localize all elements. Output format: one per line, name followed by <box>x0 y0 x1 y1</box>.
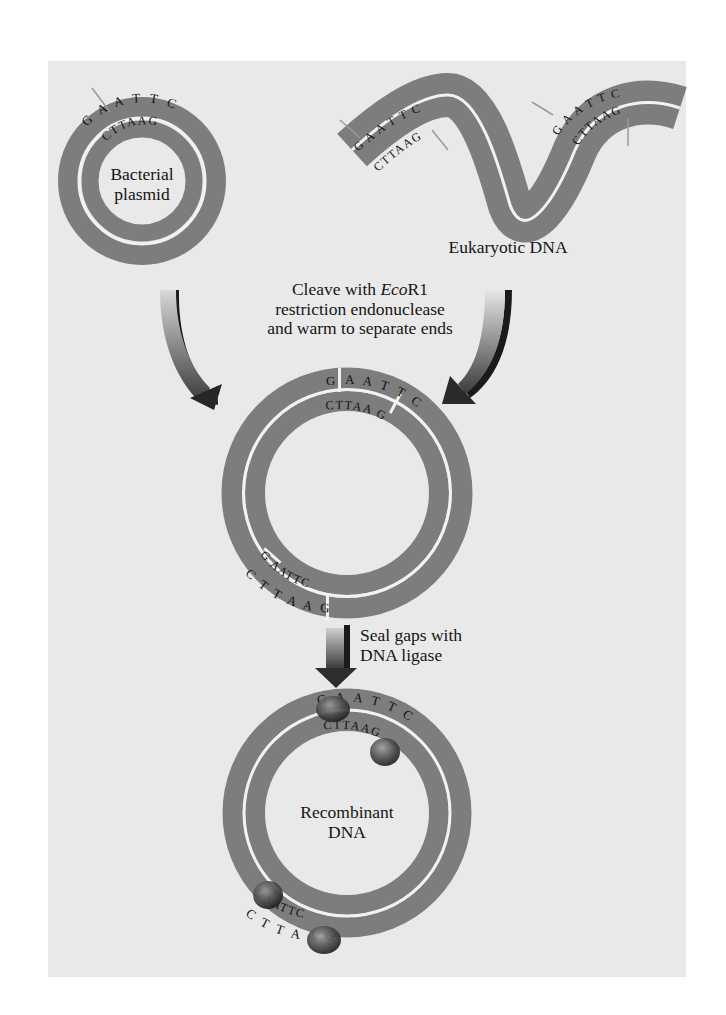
enzyme-italic: Eco <box>380 279 407 299</box>
cleave-instruction: Cleave with EcoR1 restriction endonuclea… <box>210 280 510 339</box>
cleavage-pointer-icon <box>432 130 448 150</box>
plasmid-label-line2: plasmid <box>102 185 182 205</box>
ligase-seal-icon <box>316 696 350 722</box>
recombinant-dna-diagram: G A A T T C CTTAAG G A A T T C CTTAAG G … <box>0 0 726 1015</box>
cleave-instruction-line3: and warm to separate ends <box>210 319 510 339</box>
plasmid-label-line1: Bacterial <box>102 165 182 185</box>
recombinant-label-line2: DNA <box>277 823 417 843</box>
plasmid-label: Bacterial plasmid <box>102 165 182 204</box>
cleave-instruction-line1: Cleave with EcoR1 <box>210 280 510 300</box>
eukaryotic-label: Eukaryotic DNA <box>428 238 588 258</box>
eukaryotic-dna: G A A T T C CTTAAG G A A T T C CTTAAG <box>340 86 680 221</box>
ligase-instruction-line1: Seal gaps with <box>360 626 490 646</box>
ligase-instruction-line2: DNA ligase <box>360 646 490 666</box>
cleaved-ring: G A A T T C CTTAA G G AATTC C T T A A G <box>232 368 462 620</box>
down-arrow-icon <box>315 625 357 688</box>
cleavage-pointer-icon <box>532 102 553 115</box>
cleave-instruction-line2: restriction endonuclease <box>210 300 510 320</box>
cleave-prefix: Cleave with <box>292 279 380 299</box>
recombinant-label-line1: Recombinant <box>277 803 417 823</box>
recombinant-label: Recombinant DNA <box>277 803 417 842</box>
ligase-seal-icon <box>307 926 341 954</box>
ligase-seal-icon <box>370 738 400 766</box>
ligase-instruction: Seal gaps with DNA ligase <box>360 626 490 665</box>
ligase-seal-icon <box>253 881 283 909</box>
enzyme-suffix: R1 <box>408 279 428 299</box>
ring-top-outer-left: G <box>326 373 338 388</box>
